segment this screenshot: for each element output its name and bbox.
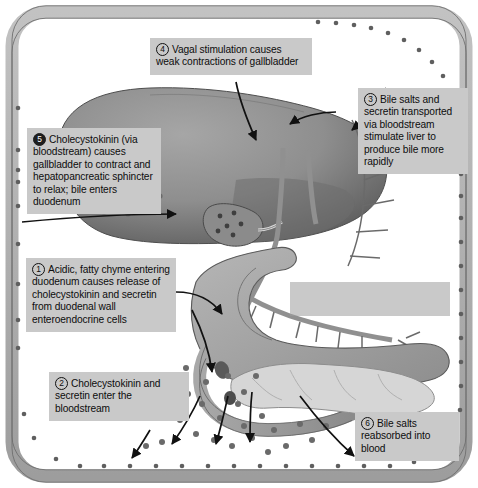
callout-3-number: 3 <box>364 93 377 106</box>
callout-6-number: 6 <box>361 417 374 430</box>
callout-2-text: Cholecystokinin and secretin enter the b… <box>55 378 160 414</box>
callout-1: 1Acidic, fatty chyme entering duodenum c… <box>26 258 176 332</box>
diagram-canvas: 4Vagal stimulation causes weak contracti… <box>0 0 478 488</box>
callout-2: 2Cholecystokinin and secretin enter the … <box>49 372 189 421</box>
callout-5-number: 5 <box>33 133 46 146</box>
callout-3-text: Bile salts and secretin transported via … <box>364 94 452 167</box>
callout-4-number: 4 <box>156 43 169 56</box>
callout-5: 5Cholecystokinin (via bloodstream) cause… <box>27 128 161 214</box>
callout-6: 6Bile salts reabsorbed into blood <box>355 412 459 461</box>
callout-4: 4Vagal stimulation causes weak contracti… <box>150 38 312 75</box>
callout-3: 3Bile salts and secretin transported via… <box>358 88 468 174</box>
callout-2-number: 2 <box>55 377 68 390</box>
callout-5-text: Cholecystokinin (via bloodstream) causes… <box>33 134 153 207</box>
callout-1-text: Acidic, fatty chyme entering duodenum ca… <box>32 264 170 325</box>
callout-4-text: Vagal stimulation causes weak contractio… <box>156 44 298 67</box>
callout-1-number: 1 <box>32 263 45 276</box>
